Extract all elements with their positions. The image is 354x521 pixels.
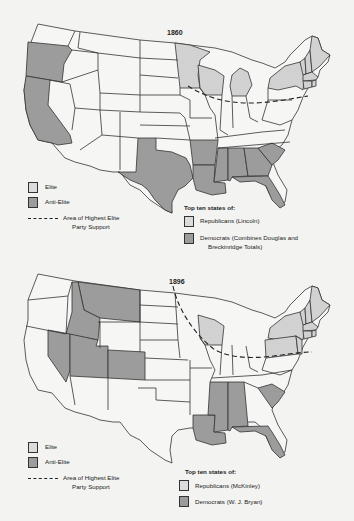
- legend-democrats-label-2: Breckinridge Totals): [208, 243, 262, 250]
- legend-dashed-line-icon: [28, 478, 58, 479]
- us-map-1860: [0, 0, 354, 260]
- state-alabama: [228, 382, 248, 431]
- legend-line-label-2: Party Support: [72, 223, 110, 230]
- map-year-1896: 1896: [169, 278, 185, 285]
- legend-elite-swatch: [28, 182, 38, 193]
- map-1896: 1896 Elite Anti-Elite Area of Highest El…: [0, 260, 354, 521]
- top-ten-title: Top ten states of:: [184, 204, 235, 211]
- map-year-1860: 1860: [167, 29, 183, 36]
- legend-line-label-2: Party Support: [72, 483, 110, 490]
- legend-dashed-line-icon: [28, 218, 58, 219]
- legend-democrats-label-1: Democrats (W. J. Bryan): [195, 498, 262, 505]
- state-connecticut: [303, 331, 312, 339]
- legend-anti-elite-label: Anti-Elite: [45, 198, 70, 205]
- legend-line-label-1: Area of Highest Elite: [63, 474, 119, 481]
- state-arkansas: [190, 140, 218, 165]
- legend-elite-swatch: [28, 442, 38, 453]
- legend-anti-elite-swatch: [28, 457, 38, 468]
- top-ten-title: Top ten states of:: [185, 468, 236, 475]
- state-colorado: [108, 350, 145, 380]
- legend-republicans-label: Republicans (McKinley): [195, 482, 260, 489]
- state-connecticut: [303, 81, 312, 89]
- legend-anti-elite-swatch: [28, 197, 38, 208]
- state-rhode-island: [312, 80, 316, 87]
- legend-line-label-1: Area of Highest Elite: [63, 214, 119, 221]
- legend-elite-label: Elite: [45, 443, 57, 450]
- legend-republicans-swatch: [179, 480, 189, 491]
- legend-democrats-swatch: [184, 233, 194, 244]
- state-new-york: [268, 62, 305, 90]
- legend-elite-label: Elite: [45, 183, 57, 190]
- state-rhode-island: [312, 330, 316, 337]
- legend-anti-elite-label: Anti-Elite: [45, 458, 70, 465]
- legend-democrats-swatch: [179, 496, 189, 507]
- map-1860: 1860 Elite Anti-Elite Area of Highest El…: [0, 0, 354, 260]
- legend-republicans-label: Republicans (Lincoln): [200, 217, 260, 224]
- legend-republicans-swatch: [184, 216, 194, 227]
- legend-democrats-label-1: Democrats (Combines Douglas and: [200, 234, 298, 241]
- us-map-1896: [0, 260, 354, 521]
- state-new-york: [268, 312, 305, 340]
